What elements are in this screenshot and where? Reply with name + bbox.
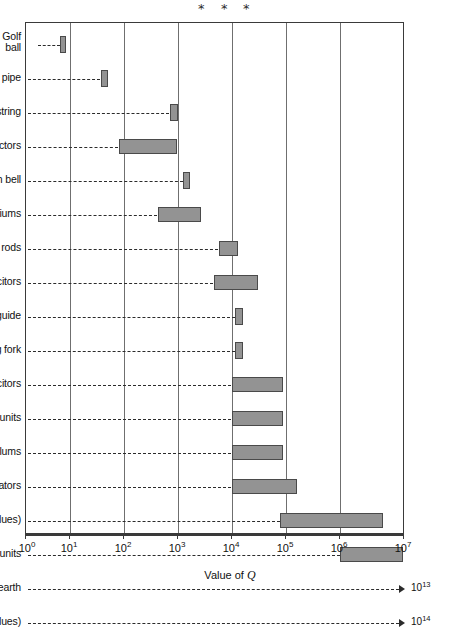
- row-cavity-resonators: Cavity resonators: [26, 470, 403, 504]
- x-axis-title: Value of Q: [0, 568, 460, 583]
- row-golf-ball: Golfball: [26, 28, 403, 62]
- row-label-text: Cavity resonators: [0, 479, 21, 491]
- arrow-base: 10: [411, 582, 422, 593]
- tick-base: 10: [19, 542, 31, 554]
- row-label-text: Piano string: [0, 105, 21, 117]
- row-label-cavity-resonators: Cavity resonators: [0, 480, 21, 492]
- x-tick-10e5: [285, 534, 286, 539]
- tick-base: 10: [331, 542, 343, 554]
- row-magnetostrictive-rods: Magnetostrictive rods: [26, 232, 403, 266]
- tick-exponent: 1: [73, 540, 77, 549]
- asterisk-marker-3: *: [243, 2, 250, 15]
- plot-area: Golfball Organ pipe Piano string Inducto…: [25, 22, 404, 534]
- row-label-mica-capacitors: Mica capacitors: [0, 276, 21, 288]
- x-tick-10e0: [25, 534, 26, 539]
- x-tick-label-10e2: 102: [115, 540, 132, 554]
- row-label-auditoriums: Auditoriums: [0, 208, 21, 220]
- leader-inductors: [28, 147, 118, 148]
- tick-base: 10: [277, 542, 289, 554]
- leader-precision-quartz-crystal-units: [28, 555, 340, 556]
- leader-spectral-lines-inherent: [28, 623, 399, 624]
- row-label-text: Wave guide: [0, 309, 21, 321]
- row-label-piano-string: Piano string: [0, 106, 21, 118]
- tick-base: 10: [223, 542, 235, 554]
- row-piano-string: Piano string: [26, 96, 403, 130]
- row-label-text: Commercial quartz-crystal units: [0, 411, 21, 423]
- leader-wave-guide: [28, 317, 235, 318]
- row-wave-guide: Wave guide: [26, 300, 403, 334]
- row-label-text: Golfball: [2, 30, 21, 53]
- arrow-value-spectral-lines-inherent: 1014: [411, 614, 430, 627]
- leader-magnetostrictive-rods: [28, 249, 218, 250]
- bar-organ-pipe: [101, 70, 108, 87]
- row-label-spectral-lines-practical: Spectral lines (practical values): [0, 514, 21, 526]
- leader-organ-pipe: [28, 79, 100, 80]
- tick-base: 10: [61, 542, 73, 554]
- tick-exponent: 5: [289, 540, 293, 549]
- row-label-text: Tuning fork: [0, 343, 21, 355]
- x-tick-label-10e1: 101: [61, 540, 78, 554]
- tick-exponent: 2: [127, 540, 131, 549]
- bar-precision-quartz-crystal-units: [340, 547, 403, 562]
- row-label-text: Pendulums: [0, 445, 21, 457]
- row-label-text: Auditoriums: [0, 207, 21, 219]
- leader-golf-ball: [38, 45, 60, 46]
- tick-exponent: 3: [181, 540, 185, 549]
- row-label-text: Mica capacitors: [0, 275, 21, 287]
- leader-tuning-fork: [28, 351, 235, 352]
- arrow-exponent: 14: [422, 614, 430, 623]
- row-label-golf-ball: Golfball: [2, 31, 21, 52]
- x-axis-line: [25, 534, 404, 536]
- row-label-spectral-lines-inherent: Spectral lines (inherent values): [0, 616, 21, 628]
- leader-auditoriums: [28, 215, 157, 216]
- row-spectral-lines-inherent: Spectral lines (inherent values) 1014: [26, 606, 403, 631]
- tick-exponent: 0: [31, 540, 35, 549]
- leader-cavity-resonators: [28, 487, 231, 488]
- leader-piano-string: [28, 113, 169, 114]
- arrow-icon-spectral-lines-inherent: [399, 619, 405, 627]
- bar-mica-capacitors: [214, 275, 258, 290]
- bar-church-bell: [183, 172, 190, 189]
- leader-air-capacitors: [28, 385, 231, 386]
- row-label-wave-guide: Wave guide: [0, 310, 21, 322]
- row-label-inductors: Inductors: [0, 140, 21, 152]
- row-pendulums: Pendulums: [26, 436, 403, 470]
- x-tick-label-10e5: 105: [277, 540, 294, 554]
- asterisk-marker-2: *: [221, 2, 228, 15]
- tick-exponent: 6: [343, 540, 347, 549]
- x-tick-10e4: [231, 534, 232, 539]
- bar-commercial-quartz-crystal-units: [232, 411, 283, 426]
- bar-inductors: [119, 139, 177, 154]
- bar-auditoriums: [158, 207, 201, 222]
- row-label-air-capacitors: Air capacitors: [0, 378, 21, 390]
- bar-tuning-fork: [235, 342, 243, 359]
- row-label-text: Organ pipe: [0, 71, 21, 83]
- row-air-capacitors: Air capacitors: [26, 368, 403, 402]
- asterisk-marker-1: *: [198, 2, 205, 15]
- tick-exponent: 7: [407, 540, 411, 549]
- x-tick-10e1: [69, 534, 70, 539]
- bar-spectral-lines-practical: [280, 513, 383, 528]
- x-tick-10e7: [403, 534, 404, 539]
- x-tick-label-10e7: 107: [395, 540, 412, 554]
- row-label-magnetostrictive-rods: Magnetostrictive rods: [0, 242, 21, 254]
- row-label-organ-pipe: Organ pipe: [0, 72, 21, 84]
- bar-magnetostrictive-rods: [219, 241, 238, 256]
- x-tick-label-10e3: 103: [169, 540, 186, 554]
- x-tick-10e2: [123, 534, 124, 539]
- row-label-planet-earth: Planet earth: [0, 582, 21, 594]
- row-label-pendulums: Pendulums: [0, 446, 21, 458]
- row-tuning-fork: Tuning fork: [26, 334, 403, 368]
- row-label-commercial-quartz-crystal-units: Commercial quartz-crystal units: [0, 412, 21, 424]
- leader-spectral-lines-practical: [28, 521, 280, 522]
- bar-piano-string: [170, 104, 178, 121]
- row-mica-capacitors: Mica capacitors: [26, 266, 403, 300]
- row-label-church-bell: Church bell: [0, 174, 21, 186]
- tick-base: 10: [115, 542, 127, 554]
- row-label-text: Spectral lines (practical values): [0, 513, 21, 525]
- row-organ-pipe: Organ pipe: [26, 62, 403, 96]
- tick-base: 10: [395, 542, 407, 554]
- row-inductors: Inductors: [26, 130, 403, 164]
- x-axis-title-text: Value of Q: [204, 569, 255, 581]
